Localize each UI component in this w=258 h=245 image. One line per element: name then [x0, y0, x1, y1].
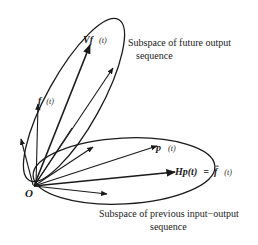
vector-past-1	[34, 147, 93, 186]
origin-label: O	[25, 187, 33, 199]
subspace-projection-diagram: O Vf (t) f (t) p (t) Hp(t) = f̂ (t) Subs…	[0, 0, 258, 245]
hp-label: Hp(t) = f̂ (t)	[174, 161, 232, 178]
future-subspace-caption-line1: Subspace of future output	[128, 37, 231, 48]
past-subspace-caption-line1: Subspace of previous input−output	[99, 208, 239, 219]
future-output-subspace-ellipse	[6, 6, 142, 193]
vf-label: Vf (t)	[83, 29, 107, 46]
vectors	[21, 45, 175, 194]
past-subspace-caption-line2: sequence	[150, 221, 187, 232]
vector-past-2	[34, 186, 107, 194]
future-subspace-caption-line2: sequence	[136, 50, 173, 61]
f-label: f (t)	[38, 90, 54, 107]
